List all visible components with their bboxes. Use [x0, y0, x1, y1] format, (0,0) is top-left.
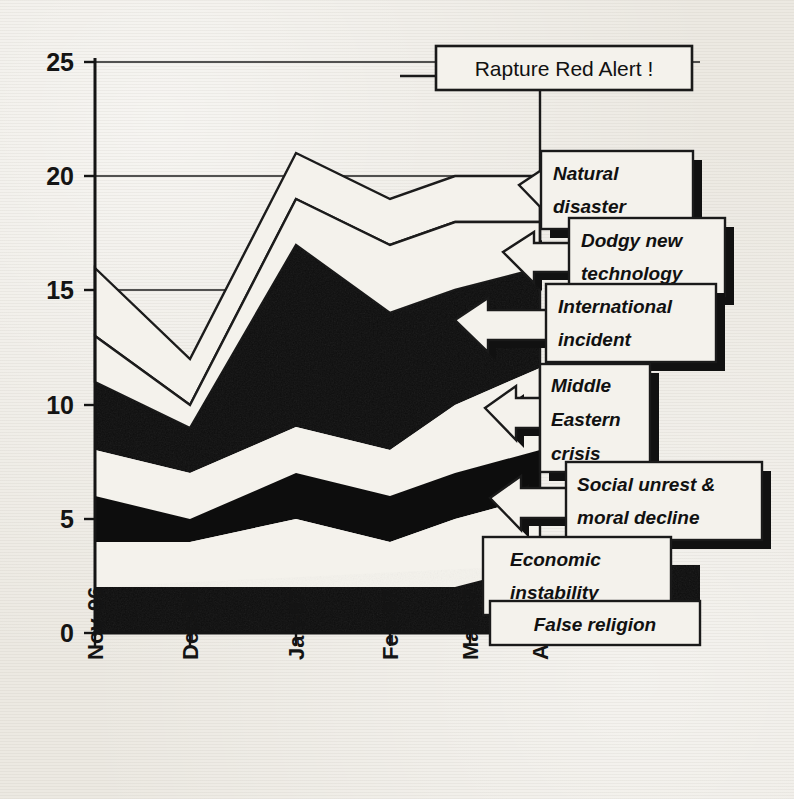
y-tick-5: 5	[60, 505, 74, 533]
x-tick-dec96: Dec-96	[178, 588, 203, 660]
y-tick-20: 20	[46, 162, 74, 190]
x-tick-jan97: Jan-97	[284, 590, 309, 660]
economic-instability-label-line1: Economic	[510, 549, 601, 570]
middle-eastern-crisis-label-line1: Middle	[551, 375, 612, 396]
x-tick-nov96: Nov-96	[83, 587, 108, 660]
natural-disaster-label-line2: disaster	[553, 196, 627, 217]
dodgy-new-technology-label-line1: Dodgy new	[581, 230, 684, 251]
chart-figure: 25 20 15 10 5 0 Nov-96 Dec-96 Jan-97 Feb…	[0, 0, 794, 799]
dodgy-new-technology-label-line2: technology	[581, 263, 684, 284]
y-axis-labels: 25 20 15 10 5 0	[46, 48, 74, 647]
y-tick-15: 15	[46, 276, 74, 304]
social-unrest-label-line2: moral decline	[577, 507, 700, 528]
natural-disaster-label-line1: Natural	[553, 163, 619, 184]
international-incident-label-line2: incident	[558, 329, 632, 350]
stacked-area-chart: 25 20 15 10 5 0 Nov-96 Dec-96 Jan-97 Feb…	[0, 0, 794, 799]
middle-eastern-crisis-label-line2: Eastern	[551, 409, 621, 430]
rapture-red-alert-callout[interactable]: Rapture Red Alert !	[400, 46, 692, 90]
x-tick-feb97: Feb-97	[378, 589, 403, 660]
callout-false-religion[interactable]: False religion	[490, 601, 700, 645]
y-tick-25: 25	[46, 48, 74, 76]
international-incident-label-line1: International	[558, 296, 673, 317]
social-unrest-label-line1: Social unrest &	[577, 474, 715, 495]
y-axis-ticks	[84, 62, 95, 633]
x-tick-mar97: Mar-97	[458, 589, 483, 660]
y-tick-0: 0	[60, 619, 74, 647]
y-tick-10: 10	[46, 391, 74, 419]
alert-label: Rapture Red Alert !	[475, 57, 654, 80]
false-religion-label: False religion	[534, 614, 656, 635]
